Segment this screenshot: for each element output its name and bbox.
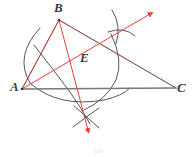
red-rays-group: [22, 14, 150, 130]
geometry-figure: A B C E (a): [0, 0, 196, 157]
vertex-dot-A: [21, 88, 24, 91]
figure-caption: (a): [0, 147, 196, 155]
vertex-label-C: C: [177, 81, 186, 94]
vertex-dot-B: [58, 19, 61, 22]
side-ac-baseline: [22, 88, 176, 89]
compass-arc-from-C: [84, 34, 119, 110]
compass-arcs-group: [24, 28, 130, 124]
geometry-canvas: [0, 0, 196, 157]
vertex-label-A: A: [10, 80, 19, 93]
point-label-E: E: [80, 51, 89, 64]
perpendicular-bisector-ray-from-B: [59, 20, 88, 130]
triangle-sides-group: [22, 20, 176, 89]
compass-arc-from-A-large: [24, 28, 130, 102]
segment-bc-red-chord: [59, 20, 135, 64]
vertex-label-B: B: [54, 1, 63, 14]
